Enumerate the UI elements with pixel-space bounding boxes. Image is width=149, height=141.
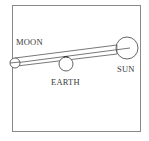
moon-earth-sun-diagram: MOON EARTH SUN	[0, 0, 149, 141]
earth-label: EARTH	[51, 77, 80, 87]
moon-label: MOON	[16, 37, 43, 47]
sun-label: SUN	[117, 64, 135, 74]
earth-circle	[59, 57, 73, 71]
